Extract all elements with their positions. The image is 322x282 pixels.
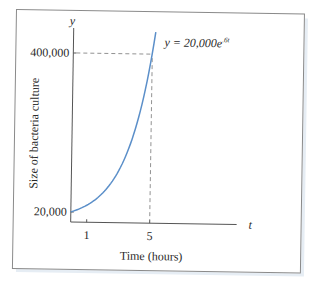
y-axis-label: Size of bacteria culture: [26, 78, 42, 189]
dashed-line-t5: [150, 58, 153, 221]
y-tick-label-400000: 400,000: [30, 45, 69, 60]
dashed-line-400000: [76, 53, 150, 54]
y-tick-label-20000: 20,000: [34, 204, 67, 219]
x-axis: [71, 222, 237, 225]
chart-plot: y t 400,000 20,000 1 5 Time (hours) Size…: [0, 0, 322, 282]
x-axis-label: Time (hours): [120, 249, 183, 264]
equation-label: y = 20,000e.6t: [163, 35, 230, 50]
y-axis-var: y: [69, 14, 76, 28]
equation-exponent: .6t: [222, 36, 230, 44]
y-axis: [71, 28, 74, 222]
equation-main: y = 20,000e: [163, 35, 223, 50]
x-axis-var: t: [249, 218, 253, 232]
x-tick-label-5: 5: [146, 229, 152, 243]
exponential-curve: [71, 31, 156, 213]
x-tick-label-1: 1: [83, 228, 89, 242]
